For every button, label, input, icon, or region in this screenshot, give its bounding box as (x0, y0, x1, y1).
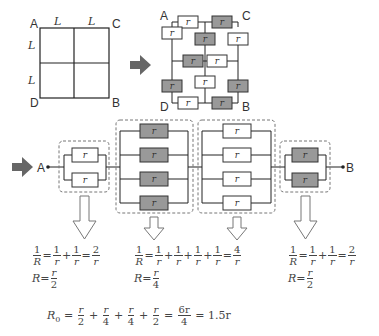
svg-text:r: r (152, 198, 157, 208)
equation-group-2: 1R=1r+1r+1r+1r=4r R=r4 (134, 244, 242, 290)
svg-text:r: r (220, 17, 225, 27)
svg-text:r: r (235, 198, 240, 208)
svg-text:r: r (152, 174, 157, 184)
square-grid: A C D B L L L L (27, 15, 121, 110)
svg-text:r: r (303, 175, 308, 185)
svg-text:r: r (235, 126, 240, 136)
grid-corner-d: D (160, 100, 169, 114)
side-label: L (87, 15, 95, 28)
svg-text:r: r (215, 56, 220, 66)
svg-text:r: r (152, 150, 157, 160)
side-label: L (27, 74, 35, 87)
svg-text:r: r (203, 34, 208, 44)
equation-group-3: 1R=1r+1r=2r R=r2 (288, 244, 357, 290)
svg-text:r: r (191, 56, 196, 66)
svg-text:r: r (236, 81, 241, 91)
svg-text:r: r (203, 77, 208, 87)
svg-text:r: r (83, 150, 88, 160)
svg-text:r: r (152, 126, 157, 136)
corner-d: D (30, 96, 39, 110)
corner-c: C (112, 17, 121, 31)
equation-group-1: 1R=1r+1r=2r R=r2 (32, 244, 101, 290)
svg-text:r: r (303, 150, 308, 160)
svg-text:r: r (220, 98, 225, 108)
svg-text:r: r (83, 175, 88, 185)
right-arrow-icon (130, 55, 151, 75)
terminal-a: A (37, 161, 45, 175)
svg-text:r: r (170, 28, 175, 38)
svg-text:r: r (235, 174, 240, 184)
grid-corner-a: A (160, 9, 168, 23)
terminal-b: B (346, 161, 354, 175)
series-parallel-circuit: A B (37, 120, 354, 240)
grid-corner-c: C (242, 9, 251, 23)
right-arrow-icon (12, 157, 33, 177)
grid-corner-b: B (242, 100, 250, 114)
corner-b: B (112, 96, 120, 110)
side-label: L (53, 15, 61, 28)
svg-text:r: r (170, 81, 175, 91)
side-label: L (27, 39, 35, 52)
svg-text:r: r (186, 17, 191, 27)
svg-text:r: r (186, 98, 191, 108)
svg-text:r: r (235, 150, 240, 160)
corner-a: A (30, 17, 38, 31)
down-arrow-icons (73, 196, 317, 240)
svg-text:r: r (236, 34, 241, 44)
total-resistance-equation: R0 = r2 + r4 + r4 + r2 = 6r4 = 1.5r (47, 304, 231, 327)
